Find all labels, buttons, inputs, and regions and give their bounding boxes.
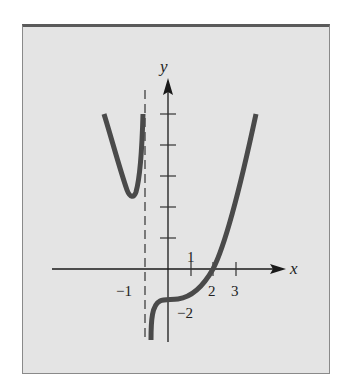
curve-left-branch [104,114,143,196]
y-axis-label: y [158,57,168,76]
tick-label-2: 2 [208,283,216,299]
curve-right-branch [151,114,256,340]
tick-label-neg2: −2 [177,305,193,321]
x-axis-label: x [289,259,298,278]
tick-label-1: 1 [187,249,195,265]
tick-label-3: 3 [231,283,239,299]
tick-label-neg1: −1 [116,283,132,299]
chart-svg: y x −1 1 2 3 −2 [0,0,348,386]
